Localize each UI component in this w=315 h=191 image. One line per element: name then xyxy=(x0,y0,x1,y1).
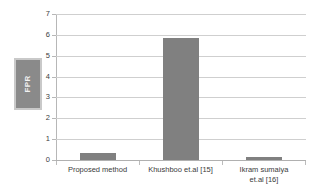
y-tick-label: 6 xyxy=(34,31,50,39)
y-tick-label: 1 xyxy=(34,135,50,143)
y-tick-label: 5 xyxy=(34,52,50,60)
x-tick-label-proposed-method: Proposed method xyxy=(56,165,139,175)
y-tick-label: 7 xyxy=(34,10,50,18)
bar-khushboo-et-al-15 xyxy=(163,38,199,160)
x-axis-tick-labels: Proposed method Khushboo et.al [15] Ikra… xyxy=(56,165,306,191)
y-tick-label: 3 xyxy=(34,94,50,102)
y-tick-label: 4 xyxy=(34,73,50,81)
bar-chart: FPR 7 6 5 4 3 2 1 0 xyxy=(0,0,315,191)
x-tick-label-ikram-sumaiya-et-al-16: Ikram sumaiyaet.al [16] xyxy=(222,165,306,185)
x-axis-baseline xyxy=(56,160,306,161)
plot-area xyxy=(56,14,306,160)
y-tick-label: 2 xyxy=(34,115,50,123)
bar-proposed-method xyxy=(80,153,116,160)
x-tick-label-khushboo-et-al-15: Khushboo et.al [15] xyxy=(139,165,222,175)
y-axis-title-label: FPR xyxy=(24,75,32,92)
y-axis-tick-labels: 7 6 5 4 3 2 1 0 xyxy=(34,14,50,160)
bars-layer xyxy=(56,14,306,160)
bar-ikram-sumaiya-et-al-16 xyxy=(246,157,282,160)
y-tick-label: 0 xyxy=(34,156,50,164)
